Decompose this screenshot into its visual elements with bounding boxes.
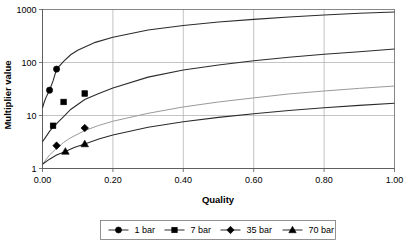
multiplier-value-vs-quality-chart: 1000100101 0.000.200.400.600.801.00 Mult…: [0, 0, 411, 245]
x-tick-label: 1.00: [386, 175, 404, 185]
series-line-1-bar: [43, 12, 395, 108]
y-tick-label: 100: [21, 58, 36, 68]
chart-container: 1000100101 0.000.200.400.600.801.00 Mult…: [0, 0, 411, 245]
plot-area-border: [43, 10, 395, 169]
series-lines: [43, 12, 395, 164]
marker-circle: [53, 66, 59, 72]
legend-item-label: 7 bar: [191, 225, 212, 235]
x-tick-label: 0.60: [245, 175, 263, 185]
grid-lines: [43, 10, 395, 169]
series-line-7-bar: [43, 49, 395, 142]
marker-triangle: [62, 148, 70, 155]
y-axis-ticks: 1000100101: [16, 5, 42, 174]
marker-circle: [46, 87, 52, 93]
y-axis-title: Multiplier value: [2, 60, 13, 129]
marker-square: [172, 227, 177, 232]
x-axis-title: Quality: [202, 194, 235, 205]
y-tick-label: 1000: [16, 5, 36, 15]
marker-square: [82, 91, 88, 97]
x-tick-label: 0.00: [34, 175, 52, 185]
x-tick-label: 0.80: [315, 175, 333, 185]
marker-diamond: [81, 124, 89, 132]
y-tick-label: 1: [31, 164, 36, 174]
series-line-70-bar: [43, 103, 395, 164]
x-axis-ticks: 0.000.200.400.600.801.00: [34, 169, 404, 185]
chart-legend: 1 bar7 bar35 bar70 bar: [101, 221, 336, 240]
legend-item-label: 1 bar: [135, 225, 156, 235]
marker-square: [61, 99, 67, 105]
marker-circle: [115, 227, 121, 233]
series-line-35-bar: [43, 86, 395, 164]
series-markers: [46, 66, 88, 154]
x-tick-label: 0.20: [104, 175, 122, 185]
x-tick-label: 0.40: [175, 175, 193, 185]
marker-square: [50, 123, 56, 129]
y-tick-label: 10: [26, 111, 36, 121]
legend-item-label: 70 bar: [309, 225, 335, 235]
legend-item-label: 35 bar: [247, 225, 273, 235]
plot-frame: [43, 10, 395, 169]
marker-diamond: [53, 142, 61, 150]
